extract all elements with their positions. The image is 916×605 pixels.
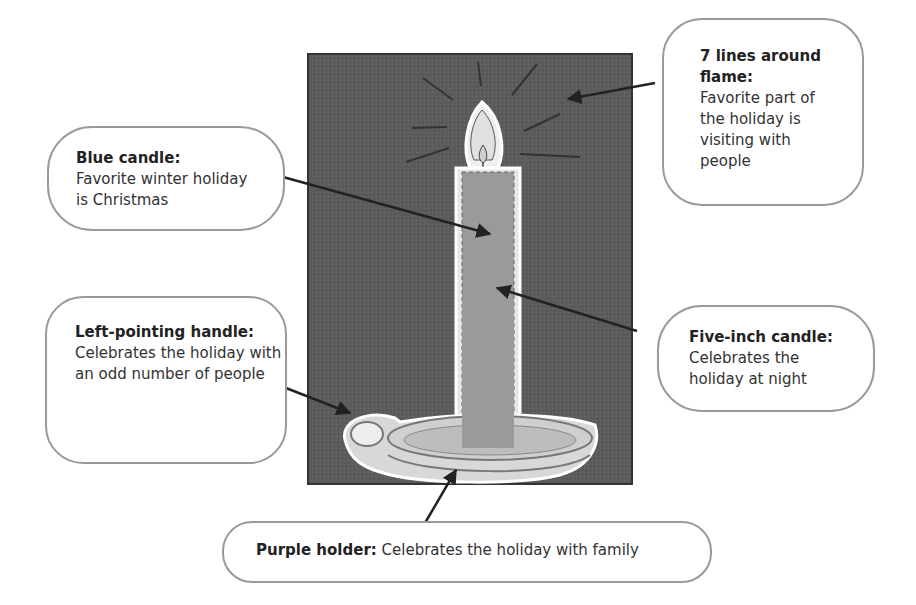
callout-title: Purple holder:	[256, 541, 377, 559]
callout-five-inch: Five-inch candle: Celebrates the holiday…	[657, 305, 875, 412]
callout-seven-lines: 7 lines around flame: Favorite part of t…	[662, 18, 864, 206]
callout-left-handle: Left-pointing handle: Celebrates the hol…	[45, 296, 287, 464]
callout-title: Blue candle:	[76, 149, 180, 167]
callout-text: Celebrates the holiday with an odd numbe…	[75, 344, 281, 383]
callout-blue-candle: Blue candle: Favorite winter holiday is …	[47, 126, 285, 231]
callout-text: Favorite part of the holiday is visiting…	[700, 88, 840, 172]
callout-title: 7 lines around flame:	[700, 46, 840, 88]
callout-title: Five-inch candle:	[689, 328, 833, 346]
callout-text: Celebrates the holiday at night	[689, 348, 839, 390]
callout-purple-holder: Purple holder: Celebrates the holiday wi…	[222, 521, 712, 583]
callout-title: Left-pointing handle:	[75, 323, 254, 341]
callout-text: Celebrates the holiday with family	[382, 541, 639, 559]
callout-text: Favorite winter holiday is Christmas	[76, 169, 256, 211]
